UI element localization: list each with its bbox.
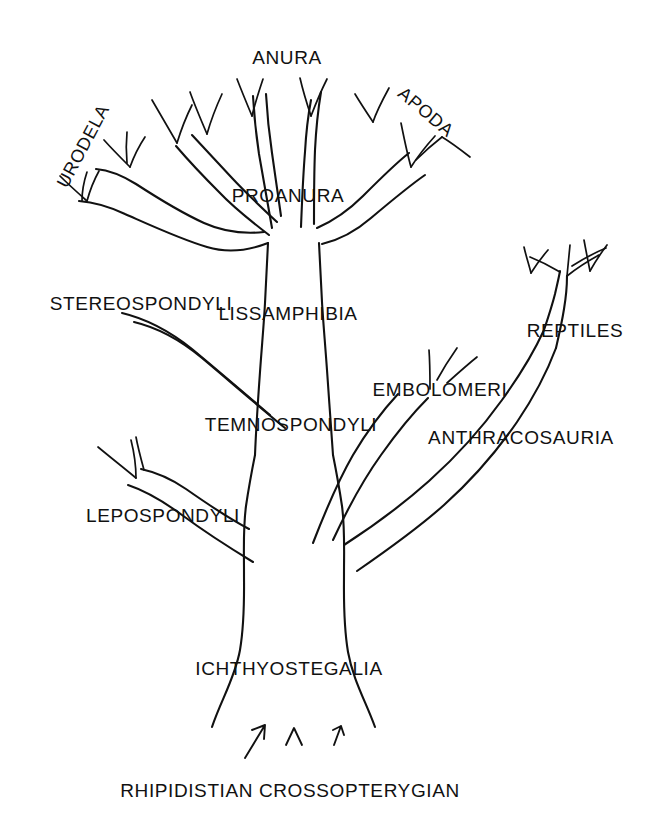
trunk-left-contour (212, 455, 255, 727)
root-arrow-center (286, 728, 302, 745)
apoda-twig-a (401, 123, 411, 167)
label-lepospondyli: LEPOSPONDYLI (86, 506, 240, 525)
apoda-twig-b (416, 137, 442, 160)
apoda-far-twig-fork (373, 88, 389, 122)
label-reptiles: REPTILES (527, 321, 624, 340)
label-embolomeri: EMBOLOMERI (373, 380, 508, 399)
lepospondyli-twig-up (136, 437, 144, 470)
reptiles-twig-left-tip (524, 247, 531, 273)
lepospondyli-branch-group (98, 437, 253, 562)
lepospondyli-twig-fork-left (98, 447, 136, 478)
urodela-twig-b (126, 132, 127, 163)
reptiles-twig-left-limb (530, 257, 560, 272)
label-temnospondyli: TEMNOSPONDYLI (205, 415, 378, 434)
root-arrow-group (245, 725, 344, 758)
reptiles-twig-left-fork (531, 250, 548, 273)
label-stereospondyli: STEREOSPONDYLI (50, 294, 233, 313)
midleft-twig2-fork-b (207, 94, 222, 134)
apoda-twig-a-fork (411, 136, 435, 167)
apoda-twig-b-fork (442, 137, 470, 157)
label-ichthyostegalia: ICHTHYOSTEGALIA (195, 659, 382, 678)
root-arrow-right (333, 726, 344, 745)
label-anthracosauria: ANTHRACOSAURIA (428, 428, 614, 447)
apoda-far-twig (355, 94, 373, 122)
label-anura: ANURA (252, 48, 322, 67)
crown-limb-centerright-pair (301, 100, 311, 227)
anura-twig-left-fork-a (237, 79, 252, 116)
trunk-group (212, 455, 375, 727)
stereospondyli-upper-edge (122, 313, 270, 415)
label-rhipidistian-crossopterygian: RHIPIDISTIAN CROSSOPTERYGIAN (120, 781, 460, 800)
trunk-right-contour (333, 455, 375, 727)
midleft-twig-fork-b (177, 105, 192, 143)
urodela-twig-a-fork2 (87, 171, 99, 201)
anthracosauria-branch-group (344, 330, 556, 571)
midleft-twig2-fork-a (190, 92, 207, 134)
label-lissamphibia: LISSAMPHIBIA (218, 304, 357, 323)
root-arrow-left (245, 725, 265, 758)
crown-limb-urodela-lower (79, 201, 268, 251)
reptiles-twig-center (567, 245, 570, 276)
lepospondyli-twig-fork-right (131, 440, 136, 478)
urodela-twig-b-fork2 (130, 137, 145, 167)
anura-twig-right-fork-a (300, 78, 311, 116)
midleft-twig-fork-a (152, 100, 177, 143)
label-proanura: PROANURA (232, 186, 344, 205)
phylogenetic-tree-figure: ANURA URODELA APODA PROANURA STEREOSPOND… (0, 0, 667, 828)
embolomeri-twig-mid (437, 348, 457, 380)
